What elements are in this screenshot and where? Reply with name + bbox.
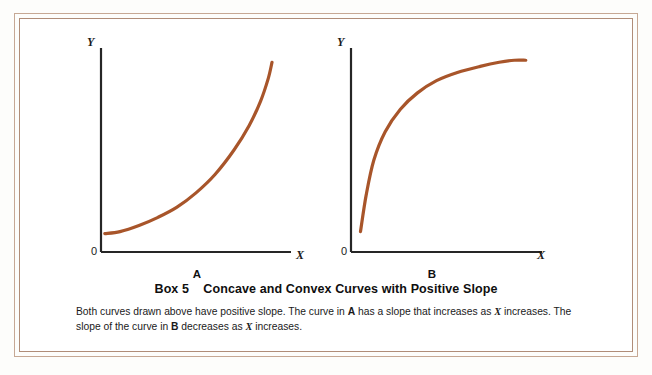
chart-b-x-axis-label: X (537, 249, 545, 261)
caption-block: Box 5 Concave and Convex Curves with Pos… (19, 282, 633, 334)
chart-a-y-axis-label: Y (87, 36, 94, 48)
caption-body: Both curves drawn above have positive sl… (76, 305, 576, 334)
chart-a-canvas (79, 30, 359, 280)
caption-line1-part3: increases. (501, 306, 551, 317)
chart-panel-b: Y X 0 B (329, 30, 609, 280)
caption-line1-part1: Both curves drawn above have positive sl… (76, 306, 348, 317)
figure-root: Y X 0 A Y X 0 B Box 5 Concave and Convex… (0, 0, 652, 375)
caption-line2-part3: increases. (252, 321, 302, 332)
caption-line1-bold-a: A (348, 306, 355, 317)
chart-b-curve (361, 60, 526, 232)
chart-panel-a: Y X 0 A (79, 30, 359, 280)
caption-line1-part2: has a slope that increases as (355, 306, 494, 317)
chart-a-curve (105, 62, 272, 233)
caption-title: Box 5 Concave and Convex Curves with Pos… (19, 282, 633, 296)
chart-b-y-axis-label: Y (337, 36, 344, 48)
chart-b-canvas (329, 30, 609, 280)
chart-a-origin-label: 0 (91, 246, 97, 257)
chart-b-origin-label: 0 (341, 246, 347, 257)
chart-a-x-axis-label: X (296, 249, 304, 261)
chart-b-panel-letter: B (292, 268, 572, 280)
caption-line2-part2: decreases as (178, 321, 245, 332)
